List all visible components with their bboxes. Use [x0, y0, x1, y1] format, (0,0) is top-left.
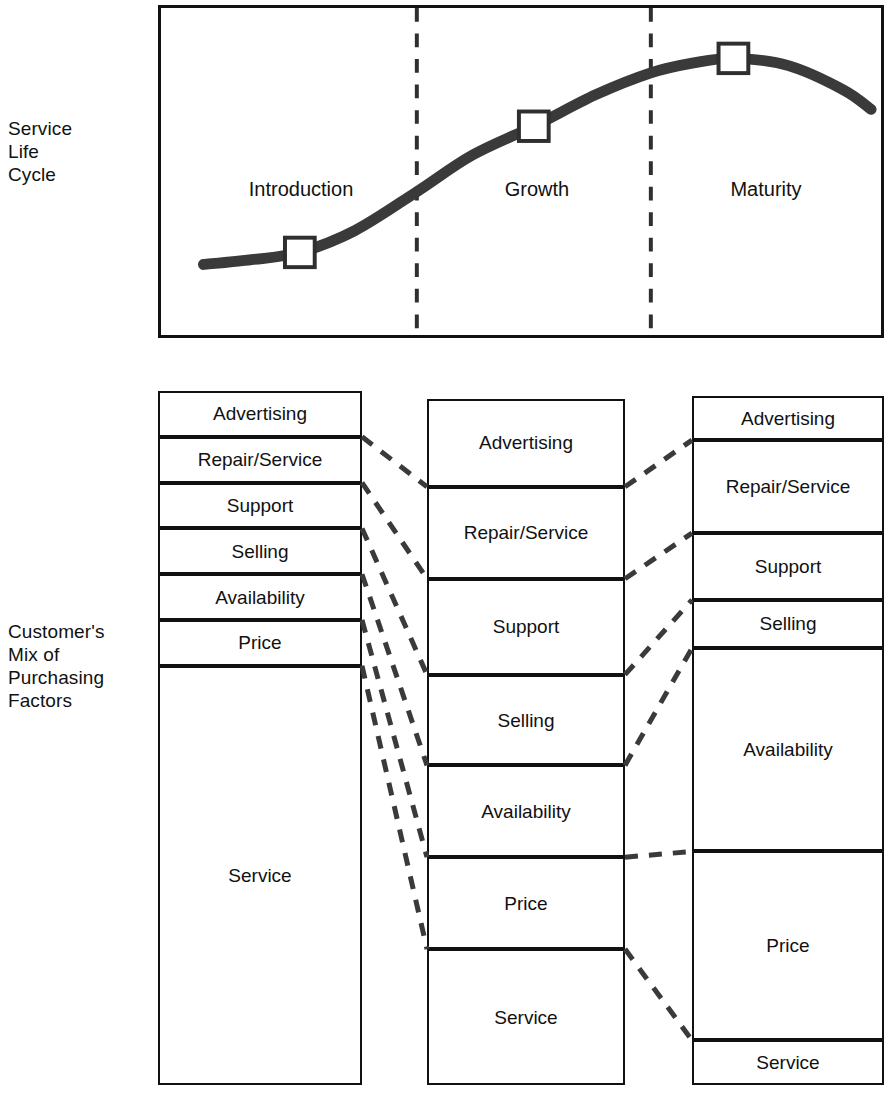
connector-growth-maturity-2 — [625, 533, 692, 579]
factor-segment-maturity-price: Price — [692, 851, 884, 1040]
connector-growth-maturity-1 — [625, 440, 692, 487]
connector-introduction-growth-3 — [362, 528, 427, 674]
connector-introduction-growth-4 — [362, 574, 427, 765]
connector-introduction-growth-5 — [362, 620, 427, 857]
factor-segment-maturity-selling: Selling — [692, 600, 884, 648]
factor-column-introduction: AdvertisingRepair/ServiceSupportSellingA… — [158, 391, 362, 1085]
factor-segment-label: Availability — [215, 588, 304, 607]
factor-segment-label: Price — [238, 633, 281, 652]
connector-growth-maturity-3 — [625, 600, 692, 675]
service-life-cycle-chart: Introduction Growth Maturity — [158, 5, 884, 338]
factor-segment-label: Support — [227, 496, 294, 515]
factor-segment-maturity-repair-service: Repair/Service — [692, 440, 884, 533]
factor-segment-growth-price: Price — [427, 857, 625, 949]
factor-segment-maturity-availability: Availability — [692, 648, 884, 851]
factor-segment-label: Advertising — [479, 433, 573, 452]
phase-label-growth: Growth — [505, 178, 569, 201]
factor-segment-growth-support: Support — [427, 579, 625, 675]
connector-growth-maturity-4 — [625, 648, 692, 765]
factor-segment-label: Price — [504, 894, 547, 913]
factor-segment-introduction-support: Support — [158, 483, 362, 529]
factor-segment-label: Repair/Service — [198, 450, 323, 469]
service-life-cycle-caption: Service Life Cycle — [8, 117, 72, 186]
factor-column-growth: AdvertisingRepair/ServiceSupportSellingA… — [427, 399, 625, 1085]
connector-growth-maturity-6 — [625, 949, 692, 1040]
factor-segment-growth-availability: Availability — [427, 765, 625, 857]
factor-segment-introduction-repair-service: Repair/Service — [158, 437, 362, 483]
curve-marker-introduction — [285, 238, 315, 267]
factor-segment-label: Price — [766, 936, 809, 955]
factor-segment-label: Support — [493, 617, 560, 636]
factor-segment-introduction-price: Price — [158, 620, 362, 666]
factor-segment-introduction-availability: Availability — [158, 574, 362, 620]
factor-column-maturity: AdvertisingRepair/ServiceSupportSellingA… — [692, 396, 884, 1085]
factor-segment-growth-advertising: Advertising — [427, 399, 625, 487]
connector-growth-maturity-5 — [625, 852, 692, 858]
factor-segment-label: Selling — [497, 711, 554, 730]
factor-segment-label: Availability — [481, 802, 570, 821]
customers-mix-caption: Customer's Mix of Purchasing Factors — [8, 620, 104, 712]
factor-segment-introduction-service: Service — [158, 666, 362, 1085]
factor-segment-label: Selling — [759, 614, 816, 633]
phase-label-maturity: Maturity — [730, 178, 801, 201]
connector-introduction-growth-2 — [362, 483, 427, 579]
factor-segment-label: Repair/Service — [726, 477, 851, 496]
factor-segment-introduction-advertising: Advertising — [158, 391, 362, 437]
factor-segment-label: Support — [755, 557, 822, 576]
curve-marker-maturity — [719, 44, 749, 73]
phase-label-introduction: Introduction — [249, 178, 354, 201]
factor-segment-label: Advertising — [213, 404, 307, 423]
life-cycle-curve — [203, 58, 871, 264]
connector-introduction-growth-6 — [362, 666, 427, 949]
factor-segment-label: Service — [228, 866, 291, 885]
factor-segment-growth-selling: Selling — [427, 675, 625, 766]
factor-segment-maturity-support: Support — [692, 533, 884, 600]
factor-segment-maturity-advertising: Advertising — [692, 396, 884, 440]
factor-segment-growth-service: Service — [427, 949, 625, 1085]
factor-segment-introduction-selling: Selling — [158, 528, 362, 574]
curve-marker-growth — [519, 112, 549, 141]
factor-segment-label: Availability — [743, 740, 832, 759]
factor-segment-label: Service — [494, 1008, 557, 1027]
factor-segment-label: Service — [756, 1053, 819, 1072]
diagram-page: Service Life Cycle Introduction Growth M… — [0, 0, 895, 1102]
factor-segment-label: Advertising — [741, 409, 835, 428]
factor-segment-label: Repair/Service — [464, 523, 589, 542]
factor-segment-label: Selling — [231, 542, 288, 561]
connector-introduction-growth-1 — [362, 437, 427, 487]
factor-segment-growth-repair-service: Repair/Service — [427, 487, 625, 579]
life-cycle-curve-svg — [161, 8, 881, 335]
factor-segment-maturity-service: Service — [692, 1040, 884, 1085]
